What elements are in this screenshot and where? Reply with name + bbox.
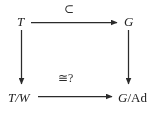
node-bottom-right-label-italic: G xyxy=(118,90,127,105)
node-top-left: T xyxy=(17,15,24,28)
arrow-top-label: ⊂ xyxy=(64,3,74,15)
diagram-blur-layer: T G T/W G/Ad ⊂ ≅? xyxy=(0,0,156,114)
node-bottom-right: G/Ad xyxy=(118,91,147,104)
node-bottom-left-label: T/W xyxy=(8,90,30,105)
node-bottom-right-label-roman: /Ad xyxy=(127,90,147,105)
node-top-left-label: T xyxy=(17,14,24,29)
node-top-right-label: G xyxy=(124,14,133,29)
commutative-diagram: T G T/W G/Ad ⊂ ≅? xyxy=(0,0,156,114)
node-top-right: G xyxy=(124,15,133,28)
node-bottom-left: T/W xyxy=(8,91,30,104)
arrow-bottom-label: ≅? xyxy=(58,72,73,84)
